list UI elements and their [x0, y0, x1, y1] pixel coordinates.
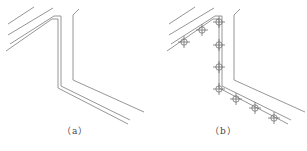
support-marker-icon	[213, 16, 225, 28]
caption-b: （b）	[210, 124, 237, 137]
support-marker-icon	[196, 24, 208, 36]
support-marker-icon	[249, 102, 261, 114]
support-marker-icon	[213, 61, 225, 73]
support-marker-icon	[213, 39, 225, 51]
panel-b-lines	[167, 7, 305, 124]
support-marker-icon	[213, 83, 225, 95]
caption-a: （a）	[62, 124, 88, 137]
support-marker-icon	[178, 36, 190, 48]
diagram-panel-b	[0, 0, 307, 151]
